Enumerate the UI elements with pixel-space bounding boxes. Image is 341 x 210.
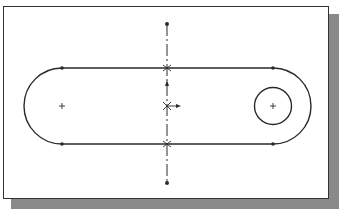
endpoint-marker[interactable] — [271, 142, 275, 146]
endpoint-marker[interactable] — [271, 66, 275, 70]
endpoint-marker[interactable] — [60, 66, 64, 70]
endpoint-marker[interactable] — [165, 22, 169, 26]
center-mark-icon — [59, 103, 65, 109]
sketch-canvas — [0, 0, 341, 210]
origin-icon — [163, 80, 181, 110]
endpoint-marker[interactable] — [60, 142, 64, 146]
sketch-endpoints — [60, 22, 275, 185]
center-mark-icon — [270, 103, 276, 109]
endpoint-marker[interactable] — [165, 181, 169, 185]
